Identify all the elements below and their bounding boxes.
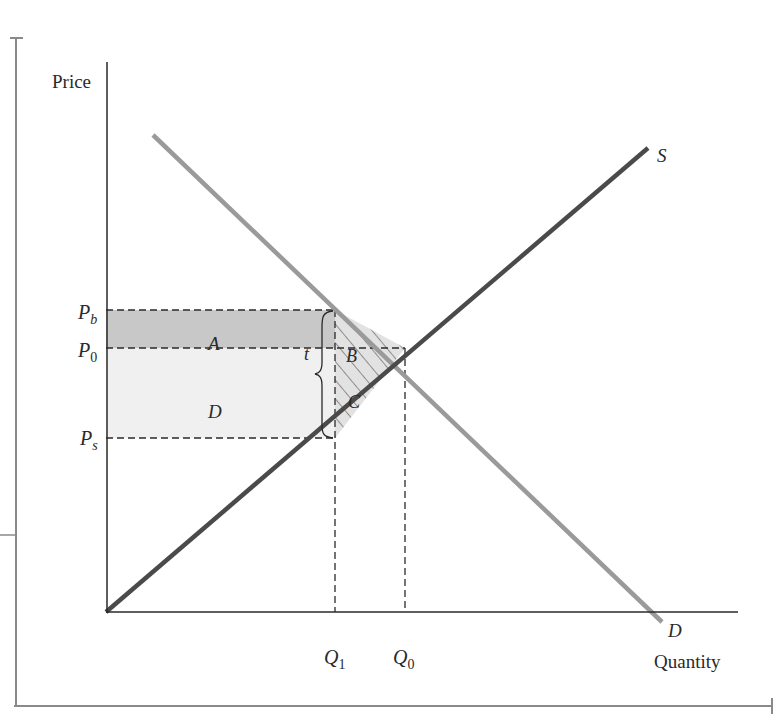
region-a-label: A [206,333,220,354]
y-axis-label: Price [52,71,91,92]
demand-curve-label: D [667,620,682,641]
region-b-label: B [346,346,357,366]
region-d [106,348,335,438]
region-d-label: D [207,401,222,422]
price-label-pb: Pb [77,301,97,327]
price-label-p0: P0 [77,339,97,365]
quantity-label-q0: Q0 [393,646,414,672]
tax-incidence-diagram: Price Quantity Pb P0 Ps Q1 Q0 S D A B C … [0,0,778,717]
supply-curve-label: S [657,145,667,166]
region-c-label: C [348,392,361,412]
price-label-ps: Ps [79,427,98,453]
deadweight-loss-hatch [335,310,405,438]
region-a [106,310,335,348]
x-axis-label: Quantity [654,651,721,672]
quantity-label-q1: Q1 [324,646,345,672]
